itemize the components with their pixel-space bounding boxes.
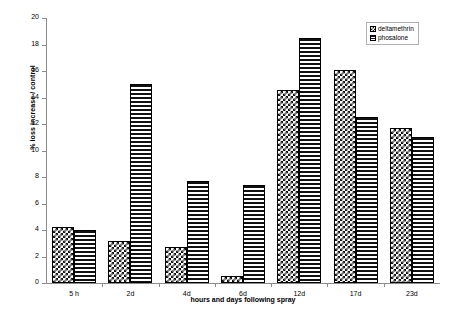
x-axis-line xyxy=(46,283,440,284)
plot-area: 02468101214161820 5 h2d4d6d12d17d23d xyxy=(46,18,440,283)
legend-item-label: phosalone xyxy=(378,35,408,42)
chart-legend: deltamethrin phosalone xyxy=(366,22,419,45)
bar-deltamethrin-17d xyxy=(334,70,356,283)
y-tick-label: 0 xyxy=(35,278,39,285)
y-tick: 10 xyxy=(42,151,46,152)
x-tick xyxy=(102,283,103,287)
y-tick: 2 xyxy=(42,257,46,258)
y-tick-label: 2 xyxy=(35,252,39,259)
y-tick-label: 4 xyxy=(35,225,39,232)
x-axis-title: hours and days following spray xyxy=(46,296,440,303)
x-tick xyxy=(271,283,272,287)
bar-phosalone-2d xyxy=(130,84,152,283)
y-tick: 18 xyxy=(42,45,46,46)
legend-swatch-icon xyxy=(370,26,376,32)
y-tick-label: 14 xyxy=(31,93,39,100)
bar-phosalone-12d xyxy=(299,38,321,283)
bar-phosalone-4d xyxy=(187,181,209,283)
bar-deltamethrin-12d xyxy=(277,90,299,283)
y-tick: 8 xyxy=(42,177,46,178)
y-tick-label: 6 xyxy=(35,199,39,206)
y-axis-line xyxy=(46,18,47,283)
y-tick-label: 20 xyxy=(31,13,39,20)
x-tick xyxy=(215,283,216,287)
y-tick: 4 xyxy=(42,230,46,231)
legend-item-phosalone: phosalone xyxy=(370,35,414,42)
y-tick: 20 xyxy=(42,18,46,19)
legend-swatch-icon xyxy=(370,35,376,41)
y-tick: 0 xyxy=(42,283,46,284)
bar-deltamethrin-23d xyxy=(390,128,412,283)
x-tick xyxy=(159,283,160,287)
y-tick: 6 xyxy=(42,204,46,205)
y-tick-label: 12 xyxy=(31,119,39,126)
bar-deltamethrin-6d xyxy=(221,276,243,283)
y-tick: 12 xyxy=(42,124,46,125)
x-tick xyxy=(384,283,385,287)
y-tick-label: 8 xyxy=(35,172,39,179)
bar-phosalone-5h xyxy=(74,230,96,283)
legend-item-label: deltamethrin xyxy=(378,26,414,33)
bar-deltamethrin-2d xyxy=(108,241,130,283)
bar-deltamethrin-4d xyxy=(165,247,187,283)
bar-phosalone-6d xyxy=(243,185,265,283)
bar-phosalone-23d xyxy=(412,137,434,283)
legend-item-deltamethrin: deltamethrin xyxy=(370,26,414,33)
bar-deltamethrin-5h xyxy=(52,227,74,283)
bar-phosalone-17d xyxy=(356,117,378,283)
y-tick: 16 xyxy=(42,71,46,72)
x-tick xyxy=(327,283,328,287)
y-tick-label: 18 xyxy=(31,40,39,47)
y-tick-label: 16 xyxy=(31,66,39,73)
bar-chart: % loss increase / control 02468101214161… xyxy=(0,0,455,332)
y-axis-title: % loss increase / control xyxy=(29,28,36,188)
y-tick: 14 xyxy=(42,98,46,99)
y-tick-label: 10 xyxy=(31,146,39,153)
